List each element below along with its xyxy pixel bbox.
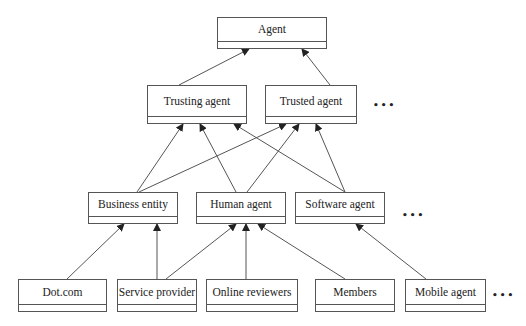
edge-human-agent-to-trusting-agent [200, 124, 236, 192]
edge-mobile-agent-to-software-agent [356, 224, 426, 279]
node-label: Trusted agent [266, 86, 356, 116]
node-dot-com: Dot.com [18, 279, 107, 312]
node-label: Service provider [118, 280, 196, 304]
edge-service-provider-to-human-agent [166, 224, 236, 279]
node-online-reviewers: Online reviewers [206, 279, 298, 312]
node-label: Human agent [197, 193, 285, 216]
ellipsis-level-3-icon: ••• [492, 290, 515, 300]
ellipsis-level-1-icon: ••• [373, 100, 396, 110]
node-compartment-divider [316, 304, 394, 305]
node-trusted-agent: Trusted agent [265, 85, 357, 124]
node-human-agent: Human agent [196, 192, 286, 224]
node-compartment-divider [207, 304, 297, 305]
node-label: Software agent [296, 193, 384, 216]
node-trusting-agent: Trusting agent [147, 85, 247, 124]
agent-class-hierarchy-diagram: AgentTrusting agentTrusted agentBusiness… [0, 0, 526, 326]
edge-trusted-agent-to-agent [302, 49, 330, 85]
node-label: Mobile agent [406, 280, 485, 304]
node-label: Business entity [89, 193, 177, 216]
node-compartment-divider [296, 216, 384, 217]
node-compartment-divider [19, 304, 106, 305]
node-members: Members [315, 279, 395, 312]
node-compartment-divider [266, 116, 356, 117]
edge-software-agent-to-trusting-agent [234, 124, 345, 192]
edge-dot-com-to-business-entity [67, 224, 124, 279]
edge-members-to-human-agent [258, 224, 345, 279]
node-compartment-divider [118, 304, 196, 305]
node-label: Trusting agent [148, 86, 246, 116]
node-compartment-divider [197, 216, 285, 217]
edge-human-agent-to-trusted-agent [247, 124, 299, 192]
edge-trusting-agent-to-agent [179, 49, 249, 85]
node-label: Agent [218, 18, 326, 41]
node-software-agent: Software agent [295, 192, 385, 224]
node-compartment-divider [89, 216, 177, 217]
edge-software-agent-to-trusted-agent [316, 124, 345, 192]
node-compartment-divider [218, 41, 326, 42]
node-label: Dot.com [19, 280, 106, 304]
node-service-provider: Service provider [117, 279, 197, 312]
node-label: Online reviewers [207, 280, 297, 304]
node-mobile-agent: Mobile agent [405, 279, 486, 312]
ellipsis-level-2-icon: ••• [402, 210, 425, 220]
node-agent: Agent [217, 17, 327, 49]
edge-business-entity-to-trusted-agent [139, 124, 286, 192]
node-business-entity: Business entity [88, 192, 178, 224]
node-compartment-divider [148, 116, 246, 117]
node-label: Members [316, 280, 394, 304]
node-compartment-divider [406, 304, 485, 305]
